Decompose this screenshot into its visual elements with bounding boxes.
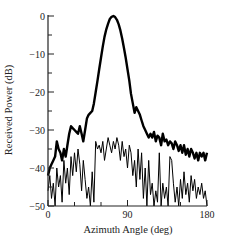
x-tick-label: 90 xyxy=(123,209,133,220)
y-tick-label: −20 xyxy=(29,87,45,98)
y-tick-label: −10 xyxy=(29,49,45,60)
y-tick-label: 0 xyxy=(40,11,45,22)
x-tick-label: 0 xyxy=(46,209,51,220)
series-thick-line xyxy=(48,16,207,176)
chart: 0−10−20−30−40−50090180 Azimuth Angle (de… xyxy=(0,0,237,240)
y-tick-label: −40 xyxy=(29,163,45,174)
y-tick-label: −50 xyxy=(29,201,45,212)
x-axis-label: Azimuth Angle (deg) xyxy=(83,224,173,236)
x-tick-label: 180 xyxy=(200,209,215,220)
y-axis-label: Received Power (dB) xyxy=(3,64,15,155)
plot-lines xyxy=(48,16,207,206)
y-tick-label: −30 xyxy=(29,125,45,136)
